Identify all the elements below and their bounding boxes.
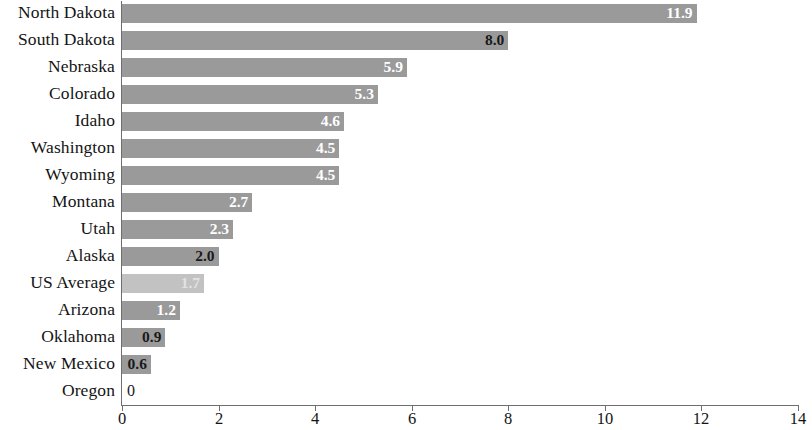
bar-row: Utah2.3 xyxy=(0,216,812,243)
category-label: Wyoming xyxy=(45,162,115,189)
x-axis-tick-label: 2 xyxy=(215,409,223,429)
bar-container: 1.2 xyxy=(122,301,180,320)
bar-container: 4.5 xyxy=(122,166,339,185)
bar-row: Oregon0 xyxy=(0,378,812,405)
bar-row: New Mexico0.6 xyxy=(0,351,812,378)
bar-value-label: 2.3 xyxy=(210,220,229,239)
category-label: Montana xyxy=(52,189,115,216)
bar-container: 4.5 xyxy=(122,139,339,158)
bar-container: 11.9 xyxy=(122,4,697,23)
bar-row: Washington4.5 xyxy=(0,135,812,162)
bar: 2.7 xyxy=(122,193,252,212)
x-axis-line xyxy=(121,405,799,406)
bar-value-label: 4.5 xyxy=(316,166,335,185)
bar: 2.0 xyxy=(122,247,219,266)
bar: 0.9 xyxy=(122,328,165,347)
category-label: US Average xyxy=(30,270,115,297)
bar-container: 1.7 xyxy=(122,274,204,293)
bar-value-label: 2.7 xyxy=(229,193,248,212)
category-label: Oklahoma xyxy=(41,324,115,351)
bar-value-label: 1.2 xyxy=(157,301,176,320)
x-axis-tick-label: 0 xyxy=(118,409,126,429)
bar-container: 4.6 xyxy=(122,112,344,131)
bar: 2.3 xyxy=(122,220,233,239)
bar-container: 5.9 xyxy=(122,58,407,77)
bar-container: 2.0 xyxy=(122,247,219,266)
category-label: Washington xyxy=(31,135,115,162)
bar-row: Wyoming4.5 xyxy=(0,162,812,189)
bar-row: North Dakota11.9 xyxy=(0,0,812,27)
bar-row: South Dakota8.0 xyxy=(0,27,812,54)
bar: 8.0 xyxy=(122,31,508,50)
bar-container: 0.6 xyxy=(122,355,151,374)
horizontal-bar-chart: North Dakota11.9South Dakota8.0Nebraska5… xyxy=(0,0,812,430)
bar: 5.9 xyxy=(122,58,407,77)
x-axis-tick-label: 6 xyxy=(408,409,416,429)
category-label: North Dakota xyxy=(18,0,115,27)
category-label: Oregon xyxy=(62,378,115,405)
category-label: Colorado xyxy=(49,81,115,108)
category-label: Nebraska xyxy=(48,54,115,81)
bar-value-label: 8.0 xyxy=(485,31,504,50)
bar-row: Arizona1.2 xyxy=(0,297,812,324)
bar: 4.5 xyxy=(122,139,339,158)
bar-container: 5.3 xyxy=(122,85,378,104)
bar-value-label: 4.5 xyxy=(316,139,335,158)
bar-row: US Average1.7 xyxy=(0,270,812,297)
bar: 11.9 xyxy=(122,4,697,23)
bar-container: 2.7 xyxy=(122,193,252,212)
category-label: Alaska xyxy=(66,243,115,270)
bar-container: 0.9 xyxy=(122,328,165,347)
bar-row: Montana2.7 xyxy=(0,189,812,216)
x-axis-tick-label: 10 xyxy=(597,409,614,429)
category-label: Idaho xyxy=(75,108,115,135)
x-axis-tick-label: 14 xyxy=(790,409,807,429)
category-label: New Mexico xyxy=(23,351,115,378)
bar-value-label: 11.9 xyxy=(666,4,692,23)
bar: 1.2 xyxy=(122,301,180,320)
x-axis-tick-label: 12 xyxy=(693,409,710,429)
bar: 5.3 xyxy=(122,85,378,104)
bar: 4.5 xyxy=(122,166,339,185)
bar-value-label: 2.0 xyxy=(195,247,214,266)
bar-row: Idaho4.6 xyxy=(0,108,812,135)
category-label: Utah xyxy=(81,216,115,243)
bar-value-label: 0.6 xyxy=(128,355,147,374)
bar-row: Alaska2.0 xyxy=(0,243,812,270)
category-label: South Dakota xyxy=(18,27,115,54)
bar-row: Nebraska5.9 xyxy=(0,54,812,81)
bar-container: 2.3 xyxy=(122,220,233,239)
x-axis-tick-label: 8 xyxy=(504,409,512,429)
bar-value-label: 0 xyxy=(127,382,135,401)
bar-value-label: 5.9 xyxy=(384,58,403,77)
x-axis-tick-label: 4 xyxy=(311,409,319,429)
bar: 4.6 xyxy=(122,112,344,131)
bar: 0.6 xyxy=(122,355,151,374)
category-label: Arizona xyxy=(58,297,115,324)
bar-row: Colorado5.3 xyxy=(0,81,812,108)
bar-value-label: 5.3 xyxy=(355,85,374,104)
bar-row: Oklahoma0.9 xyxy=(0,324,812,351)
bar-container: 8.0 xyxy=(122,31,508,50)
bar-value-label: 0.9 xyxy=(142,328,161,347)
bar: 1.7 xyxy=(122,274,204,293)
bar-value-label: 1.7 xyxy=(181,274,200,293)
bar-value-label: 4.6 xyxy=(321,112,340,131)
